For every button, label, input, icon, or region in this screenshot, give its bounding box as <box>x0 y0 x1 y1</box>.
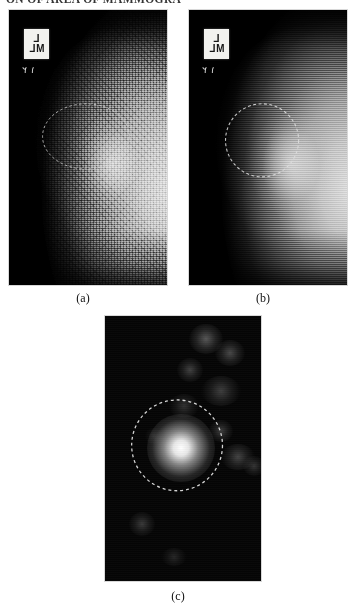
figure-panel-b: L ML ٢ ١ <box>188 9 348 286</box>
figure-panel-c <box>104 315 262 582</box>
segmentation-grain <box>105 316 261 581</box>
view-marker-digits: ٢ ١ <box>202 65 215 75</box>
caption-b: (b) <box>243 291 283 306</box>
figure-panel-a: L ML ٢ ١ <box>8 9 168 286</box>
running-head: ON OF AREA OF MAMMOGRA <box>6 0 256 5</box>
caption-c: (c) <box>158 589 198 604</box>
caption-a: (a) <box>63 291 103 306</box>
view-marker-projection: ML <box>29 44 44 54</box>
view-marker-digits: ٢ ١ <box>22 65 35 75</box>
view-marker-projection: ML <box>209 44 224 54</box>
view-marker-plate: L ML <box>204 29 229 59</box>
view-marker-plate: L ML <box>24 29 49 59</box>
